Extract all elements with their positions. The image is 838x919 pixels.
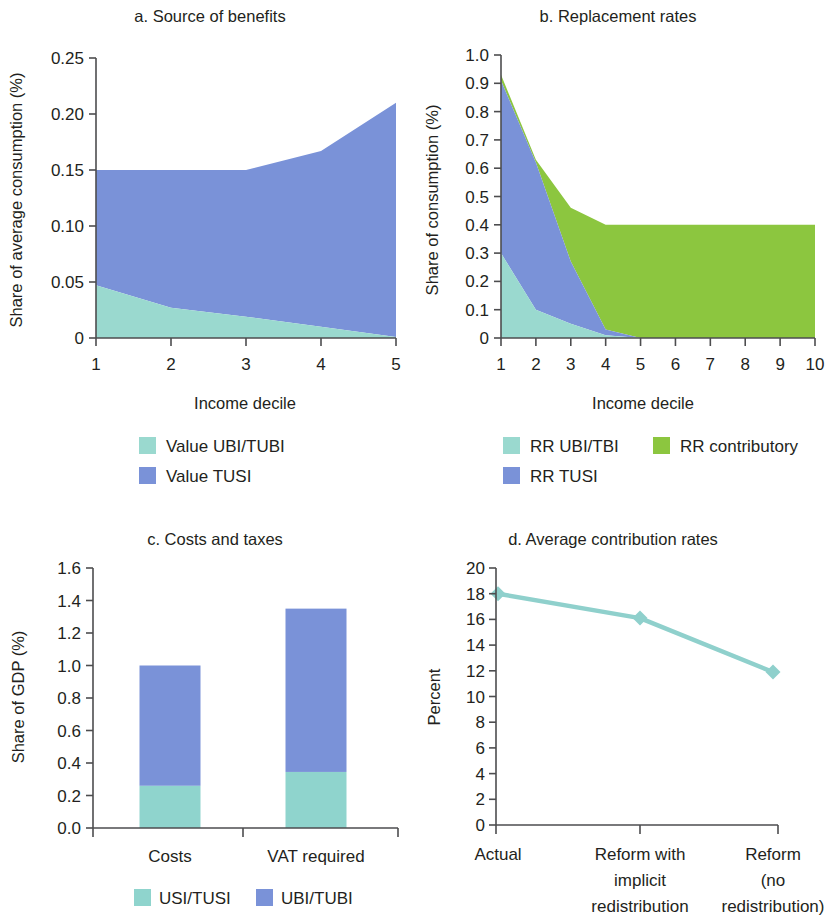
panel-b-y-tick-label: 0.9 (465, 74, 489, 93)
panel-b-y-tick-label: 0.5 (465, 188, 489, 207)
panel-a-x-tick-label: 2 (166, 355, 175, 374)
panel-a-title: a. Source of benefits (134, 7, 285, 25)
panel-c-y-tick-label: 0.8 (57, 689, 81, 708)
panel-d-y-tick-label: 6 (476, 739, 485, 758)
panel-a-x-tick-label: 4 (316, 355, 325, 374)
panel-d-x-category-label: Actual (474, 845, 521, 864)
panel-d-svg: d. Average contribution rates Percent 02… (418, 512, 838, 919)
panel-b-y-tick-label: 0 (480, 329, 489, 348)
panel-d-title: d. Average contribution rates (508, 530, 718, 548)
panel-d-marker-diamond (766, 665, 781, 680)
panel-b-x-tick-label: 3 (566, 355, 575, 374)
panel-a-legend: Value UBI/TUBIValue TUSI (139, 437, 285, 486)
panel-b-legend-swatch (653, 437, 670, 454)
panel-b-y-tick-label: 0.7 (465, 131, 489, 150)
panel-c-plot-area (140, 609, 347, 828)
panel-c-y-tick-label: 0.2 (57, 787, 81, 806)
panel-b-xlabel: Income decile (592, 394, 694, 412)
panel-d-x-category-label: redistribution) (722, 897, 825, 916)
panel-a-y-tick-label: 0.20 (51, 105, 84, 124)
panel-c-x-category-label: Costs (148, 847, 191, 866)
panel-a-y-tick-label: 0.10 (51, 217, 84, 236)
panel-b-y-tick-label: 0.1 (465, 301, 489, 320)
panel-a-plot-area (96, 103, 396, 338)
panel-d-axes: 02468101214161820 (466, 559, 778, 835)
panel-c-legend-label: USI/TUSI (159, 889, 231, 908)
panel-d-ylabel: Percent (425, 668, 443, 725)
panel-d-x-category-label: implicit (614, 871, 666, 890)
panel-b-replacement-rates: b. Replacement rates Share of consumptio… (418, 0, 838, 512)
panel-a-y-tick-label: 0.15 (51, 161, 84, 180)
panel-d-x-category-label: redistribution (591, 897, 688, 916)
panel-c-bar-segment (140, 666, 201, 786)
panel-c-svg: c. Costs and taxes Share of GDP (%) 0.00… (0, 512, 420, 919)
panel-a-y-tick-label: 0.05 (51, 273, 84, 292)
panel-a-x-tick-label: 5 (391, 355, 400, 374)
panel-c-costs-and-taxes: c. Costs and taxes Share of GDP (%) 0.00… (0, 512, 420, 919)
panel-c-legend-swatch (134, 889, 151, 906)
panel-b-x-tick-label: 4 (601, 355, 610, 374)
panel-b-x-tick-label: 7 (706, 355, 715, 374)
panel-c-y-tick-label: 1.0 (57, 657, 81, 676)
panel-b-x-tick-label: 5 (636, 355, 645, 374)
panel-d-y-tick-label: 10 (466, 688, 485, 707)
panel-d-y-tick-label: 14 (466, 636, 485, 655)
panel-d-line-percent (498, 594, 773, 672)
panel-a-x-tick-label: 1 (91, 355, 100, 374)
panel-a-source-of-benefits: a. Source of benefits Share of average c… (0, 0, 420, 512)
panel-a-svg: a. Source of benefits Share of average c… (0, 0, 420, 512)
panel-c-y-tick-label: 0.4 (57, 754, 81, 773)
panel-a-ylabel: Share of average consumption (%) (7, 73, 25, 328)
panel-b-y-tick-label: 0.8 (465, 103, 489, 122)
panel-b-title: b. Replacement rates (540, 7, 697, 25)
panel-b-x-tick-label: 1 (496, 355, 505, 374)
panel-c-legend-label: UBI/TUBI (281, 889, 353, 908)
panel-c-axes: 0.00.20.40.60.81.01.21.41.6CostsVAT requ… (57, 559, 398, 866)
panel-a-xlabel: Income decile (194, 394, 296, 412)
panel-d-y-tick-label: 20 (466, 559, 485, 578)
panel-a-legend-swatch (139, 467, 156, 484)
panel-b-x-tick-label: 2 (531, 355, 540, 374)
panel-a-legend-label: Value TUSI (166, 467, 251, 486)
panel-d-plot-area (491, 586, 781, 679)
panel-a-legend-label: Value UBI/TUBI (166, 437, 285, 456)
panel-b-legend: RR UBI/TBIRR contributoryRR TUSI (503, 437, 799, 486)
panel-c-bar-segment (286, 609, 347, 772)
panel-a-legend-swatch (139, 437, 156, 454)
panel-b-y-tick-label: 0.3 (465, 244, 489, 263)
panel-b-y-tick-label: 0.6 (465, 159, 489, 178)
panel-b-x-tick-label: 10 (806, 355, 825, 374)
panel-d-average-contribution-rates: d. Average contribution rates Percent 02… (418, 512, 838, 919)
panel-b-y-tick-label: 1.0 (465, 46, 489, 65)
panel-d-y-tick-label: 4 (476, 765, 485, 784)
panel-b-plot-area (501, 75, 815, 338)
panel-d-y-tick-label: 2 (476, 790, 485, 809)
panel-b-svg: b. Replacement rates Share of consumptio… (418, 0, 838, 512)
panel-a-x-tick-label: 3 (241, 355, 250, 374)
panel-b-legend-label: RR contributory (680, 437, 799, 456)
panel-d-y-tick-label: 8 (476, 713, 485, 732)
panel-c-y-tick-label: 0.0 (57, 819, 81, 838)
panel-b-x-tick-label: 8 (740, 355, 749, 374)
panel-b-legend-swatch (503, 437, 520, 454)
panel-c-ylabel: Share of GDP (%) (9, 631, 27, 764)
panel-d-y-tick-label: 12 (466, 662, 485, 681)
panel-b-y-tick-label: 0.4 (465, 216, 489, 235)
panel-d-y-tick-label: 16 (466, 610, 485, 629)
panel-d-marker-diamond (633, 611, 648, 626)
panel-d-x-category-label: Reform with (595, 845, 686, 864)
panel-c-legend-swatch (256, 889, 273, 906)
panel-b-legend-swatch (503, 467, 520, 484)
panel-c-legend: USI/TUSIUBI/TUBI (134, 889, 353, 908)
panel-d-x-category-label: Reform (745, 845, 801, 864)
panel-c-bar-segment (286, 772, 347, 828)
panel-c-bar-segment (140, 786, 201, 828)
panel-b-legend-label: RR TUSI (530, 467, 598, 486)
panel-c-y-tick-label: 1.4 (57, 592, 81, 611)
panel-b-legend-label: RR UBI/TBI (530, 437, 619, 456)
panel-d-y-tick-label: 0 (476, 816, 485, 835)
panel-c-y-tick-label: 1.6 (57, 559, 81, 578)
panel-a-y-tick-label: 0 (75, 329, 84, 348)
panel-b-x-tick-label: 9 (775, 355, 784, 374)
panel-b-x-tick-label: 6 (671, 355, 680, 374)
